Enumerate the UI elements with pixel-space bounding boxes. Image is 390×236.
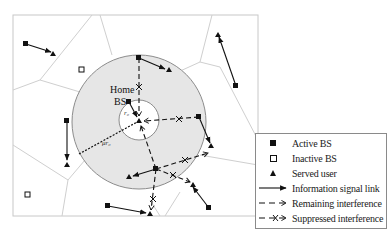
filled-triangle-icon [256, 166, 292, 180]
legend-label: Active BS [292, 138, 332, 149]
legend: Active BS Inactive BS Served user Inform… [255, 133, 387, 229]
legend-label: Inactive BS [292, 153, 337, 164]
legend-label: Served user [292, 168, 337, 179]
legend-item-inactive-bs: Inactive BS [256, 150, 386, 166]
mu-r0-label: μr₀ [102, 140, 111, 147]
legend-item-remaining-interference: Remaining interference [256, 195, 386, 211]
dashed-arrow-icon [256, 196, 292, 210]
legend-label: Remaining interference [292, 198, 382, 209]
legend-item-active-bs: Active BS [256, 135, 386, 151]
home-label: Home [110, 85, 134, 95]
legend-item-suppressed-interference: Suppressed interference [256, 210, 386, 226]
r0-label: r₀ [124, 110, 129, 117]
filled-square-icon [256, 136, 292, 150]
hollow-square-icon [256, 151, 292, 165]
crossed-dashed-arrow-icon [256, 211, 292, 225]
solid-arrow-icon [256, 181, 292, 195]
bs-label: BS [114, 97, 126, 107]
legend-label: Information signal link [292, 183, 380, 194]
legend-label: Suppressed interference [292, 213, 383, 224]
legend-item-information-link: Information signal link [256, 180, 386, 196]
legend-item-served-user: Served user [256, 165, 386, 181]
